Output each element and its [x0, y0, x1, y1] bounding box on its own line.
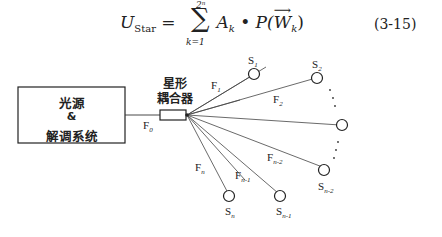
ellipsis-dot	[332, 97, 334, 99]
ellipsis-dot	[335, 149, 337, 151]
label-fn-1: Fn-1	[235, 169, 250, 184]
sensor-sn-1	[275, 191, 286, 202]
box-label-demod: 解调系统	[18, 126, 125, 145]
label-fn: Fn	[195, 161, 205, 176]
label-f0: F0	[143, 119, 153, 134]
label-f2: F2	[273, 93, 283, 108]
sensor-sn	[224, 191, 235, 202]
ellipsis-dot	[337, 141, 339, 143]
label-fn-2: Fn-2	[267, 151, 282, 166]
label-sn-1: Sn-1	[276, 205, 291, 220]
label-sn: Sn	[225, 205, 235, 220]
coupler-box	[160, 110, 186, 120]
ellipsis-dot	[329, 89, 331, 91]
coupler-label-2: 耦合器	[150, 92, 200, 107]
sensor-mid	[337, 120, 348, 131]
label-s2: S2	[312, 58, 322, 73]
label-s1: S1	[248, 54, 258, 69]
sensor-s1	[249, 69, 260, 80]
label-sn-2: Sn-2	[318, 180, 333, 195]
sensor-sn-2	[319, 165, 330, 176]
ellipsis-dot	[334, 105, 336, 107]
ellipsis-dot	[333, 157, 335, 159]
box-label-and: &	[18, 110, 125, 123]
label-f1: F1	[211, 79, 221, 94]
coupler-label-1: 星形	[150, 77, 200, 92]
junction-dot	[185, 113, 189, 117]
sensor-s2	[312, 73, 323, 84]
fiber-fn-1	[187, 115, 278, 193]
